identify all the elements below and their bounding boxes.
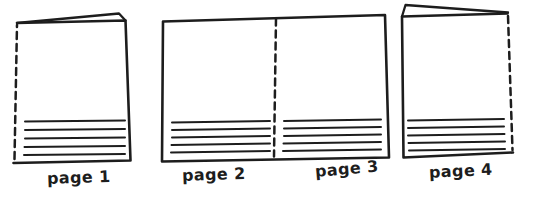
booklet-fold-diagram: page 1 page 2 page 3 page 4 — [0, 0, 533, 198]
page1-front-cover-outline — [14, 21, 131, 164]
spread-center-fold-dashed — [274, 19, 276, 157]
page4-fold-dashed-edge — [508, 16, 513, 150]
caption-page-1: page 1 — [47, 167, 111, 188]
page3-text-lines — [283, 120, 381, 152]
page1-text-lines — [24, 121, 125, 156]
page4-text-lines — [408, 119, 505, 151]
caption-page-4: page 4 — [429, 160, 494, 182]
page4-folded-booklet — [402, 5, 513, 158]
open-spread-pages2-3 — [162, 15, 389, 162]
page1-fold-dashed-edge — [15, 25, 18, 159]
page1-folded-booklet — [14, 14, 131, 164]
caption-page-2: page 2 — [182, 164, 246, 185]
page2-text-lines — [171, 121, 270, 153]
